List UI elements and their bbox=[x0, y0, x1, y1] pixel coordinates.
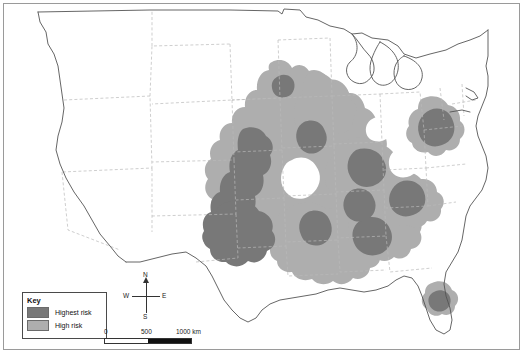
scalebar-segment-dark bbox=[148, 339, 191, 343]
scalebar-bar bbox=[104, 338, 192, 344]
map-screenshot: Key Highest risk High risk N S W E 0 500… bbox=[0, 0, 525, 355]
north-arrow-icon bbox=[143, 277, 149, 283]
compass-east-label: E bbox=[162, 292, 166, 299]
legend-label-high-risk: High risk bbox=[55, 322, 82, 329]
compass-rose: N S W E bbox=[123, 271, 169, 321]
map-legend: Key Highest risk High risk bbox=[22, 292, 107, 339]
compass-west-label: W bbox=[123, 292, 129, 299]
scalebar-tick-0: 0 bbox=[104, 328, 108, 336]
legend-item-highest-risk: Highest risk bbox=[27, 307, 102, 318]
legend-swatch-high-risk bbox=[27, 320, 49, 331]
compass-south-label: S bbox=[143, 313, 147, 320]
legend-item-high-risk: High risk bbox=[27, 320, 102, 331]
scalebar-tick-labels: 0 500 1000 km bbox=[104, 328, 194, 337]
legend-swatch-highest-risk bbox=[27, 307, 49, 318]
scalebar-tick-500: 500 bbox=[141, 328, 152, 336]
legend-title: Key bbox=[27, 296, 102, 305]
legend-label-highest-risk: Highest risk bbox=[55, 309, 92, 316]
map-scalebar: 0 500 1000 km bbox=[104, 328, 194, 348]
compass-horizontal-axis bbox=[132, 296, 160, 297]
compass-vertical-axis bbox=[146, 280, 147, 313]
scalebar-tick-1000: 1000 km bbox=[176, 328, 201, 336]
scalebar-segment-light bbox=[105, 339, 148, 343]
